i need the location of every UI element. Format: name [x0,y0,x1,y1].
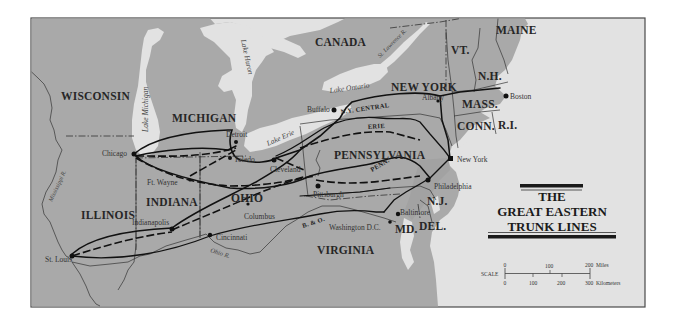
toledo-dot [228,156,232,160]
scale-label: SCALE [481,271,499,277]
label-buffalo: Buffalo [307,105,330,114]
indianapolis-dot [170,227,175,232]
label-new-york: New York [457,155,488,164]
label-canada: CANADA [315,36,367,48]
detroit-dot [234,140,238,144]
cincinnati-dot [208,233,212,237]
boston-dot [504,94,509,99]
scale-miles-unit: Miles [596,262,609,268]
scale-miles-0: 0 [504,262,507,268]
label-washington: Washington D.C. [329,223,381,232]
label-illinois: ILLINOIS [81,209,135,221]
label-indianapolis: Indianapolis [132,218,169,227]
label-maryland: MD. [395,223,418,235]
label-new-hampshire: N.H. [478,70,502,82]
label-toledo: Toledo [234,155,255,164]
label-new-jersey: N.J. [427,195,448,207]
label-cleveland: Cleveland [270,165,301,174]
label-indiana: INDIANA [146,196,198,208]
scale-miles-200: 200 [585,262,594,268]
label-st-louis: St. Louis [45,255,72,264]
label-vermont: VT. [451,44,470,56]
label-maine: MAINE [496,24,537,36]
title-line-3: TRUNK LINES [507,219,596,234]
philadelphia-dot [426,178,431,183]
label-ft-wayne: Ft. Wayne [147,178,178,187]
label-baltimore: Baltimore [400,208,431,217]
scale-miles-100: 100 [545,263,554,269]
label-massachusetts: MASS. [462,98,498,110]
label-chicago: Chicago [102,149,127,158]
label-pennsylvania: PENNSYLVANIA [334,149,426,161]
label-albany: Albany [422,93,444,102]
label-ohio: OHIO [231,192,263,204]
scale-km-300: 300 [585,280,594,286]
label-pittsburgh: Pittsburgh [313,190,344,199]
label-virginia: VIRGINIA [317,244,375,256]
label-cincinnati: Cincinnati [216,233,247,242]
trunk-lines-map: CANADA WISCONSIN MICHIGAN ILLINOIS INDIA… [0,0,676,324]
scale-km-100: 100 [529,280,538,286]
ft-wayne-dot [188,178,191,181]
title-line-2: GREAT EASTERN [497,204,607,219]
title-bottom-bar [488,235,616,239]
label-connecticut: CONN. [457,120,495,132]
cleveland-dot [272,158,277,163]
label-wisconsin: WISCONSIN [61,90,130,102]
title-top-bar [520,184,583,188]
label-rhode-island: R.I. [498,119,517,131]
label-new-york: NEW YORK [391,81,457,93]
label-delaware: DEL. [419,220,446,232]
title-line-1: THE [538,189,565,204]
chicago-dot [132,152,137,157]
label-lake-michigan: Lake Michigan [141,87,150,133]
label-detroit: Detroit [226,130,248,139]
buffalo-dot [332,108,337,113]
pittsburgh-dot [316,184,321,189]
washington-dot [388,220,392,224]
label-erie: ERIE [368,122,386,130]
scale-km-200: 200 [557,280,566,286]
label-philadelphia: Philadelphia [434,182,472,191]
new-york-dot [448,156,453,161]
label-columbus: Columbus [244,212,275,221]
scale-km-unit: Kilometers [596,280,620,286]
scale-km-0: 0 [504,280,507,286]
label-michigan: MICHIGAN [172,112,237,124]
label-boston: Boston [510,92,532,101]
